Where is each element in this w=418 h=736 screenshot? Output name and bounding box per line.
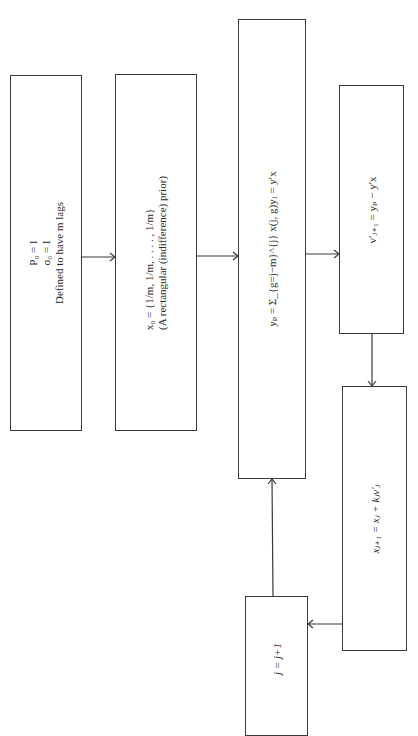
edge-increment-predict <box>272 479 273 596</box>
